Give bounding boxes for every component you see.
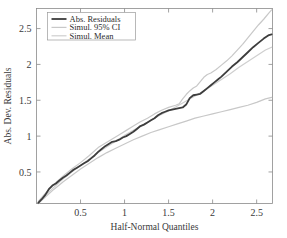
y-axis-title: Abs. Dev. Residuals bbox=[3, 67, 13, 144]
half-normal-quantile-plot: 0.511.522.50.511.522.5Half-Normal Quanti… bbox=[0, 0, 287, 238]
x-tick-label: 0.5 bbox=[74, 207, 87, 218]
x-tick-label: 1.5 bbox=[162, 207, 175, 218]
y-tick-label: 2 bbox=[27, 59, 32, 70]
y-tick-label: 1 bbox=[27, 131, 32, 142]
x-tick-label: 2.5 bbox=[250, 207, 263, 218]
x-tick-label: 2 bbox=[210, 207, 215, 218]
y-tick-label: 1.5 bbox=[19, 95, 32, 106]
legend-label-2: Simul. Mean bbox=[70, 31, 115, 41]
x-axis-title: Half-Normal Quantiles bbox=[111, 222, 199, 232]
y-tick-label: 0.5 bbox=[19, 167, 32, 178]
chart-canvas: 0.511.522.50.511.522.5Half-Normal Quanti… bbox=[0, 0, 287, 238]
y-tick-label: 2.5 bbox=[19, 23, 32, 34]
x-tick-label: 1 bbox=[122, 207, 127, 218]
